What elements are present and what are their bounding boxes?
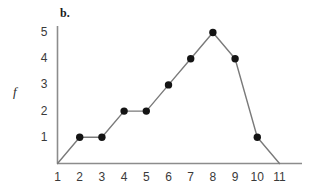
plot-area: [0, 0, 321, 194]
data-point-marker: [254, 134, 261, 141]
x-tick-label: 5: [137, 171, 155, 183]
y-tick-label: 5: [32, 26, 48, 38]
x-tick-label: 4: [115, 171, 133, 183]
x-tick-label: 7: [182, 171, 200, 183]
x-tick-label: 1: [49, 171, 67, 183]
x-tick-label: 3: [93, 171, 111, 183]
chart-figure: b. f 12345 1234567891011: [0, 0, 321, 194]
data-point-marker: [98, 134, 105, 141]
data-line: [58, 33, 280, 164]
x-tick-label: 8: [204, 171, 222, 183]
data-point-marker: [76, 134, 83, 141]
y-tick-label: 1: [32, 131, 48, 143]
y-tick-label: 4: [32, 52, 48, 64]
axis-lines: [57, 26, 302, 164]
data-point-marker: [209, 29, 216, 36]
x-tick-label: 11: [271, 171, 289, 183]
y-tick-label: 3: [32, 78, 48, 90]
x-tick-label: 10: [248, 171, 266, 183]
data-point-markers: [76, 29, 261, 141]
data-point-marker: [165, 81, 172, 88]
x-tick-label: 9: [226, 171, 244, 183]
data-point-marker: [120, 107, 127, 114]
data-point-marker: [143, 107, 150, 114]
data-point-marker: [187, 55, 194, 62]
x-tick-label: 6: [160, 171, 178, 183]
y-tick-label: 2: [32, 105, 48, 117]
x-tick-label: 2: [71, 171, 89, 183]
data-point-marker: [231, 55, 238, 62]
